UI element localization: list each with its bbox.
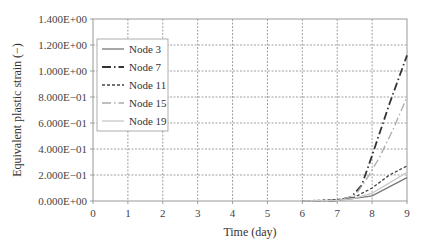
y-tick-label: 6.000E−01	[38, 117, 87, 129]
y-tick-label: 4.000E−01	[38, 143, 87, 155]
x-tick-label: 4	[230, 207, 236, 219]
legend: Node 3Node 7Node 11Node 15Node 19	[97, 39, 168, 131]
legend-label: Node 19	[129, 115, 167, 127]
legend-label: Node 3	[129, 43, 162, 55]
x-axis-label: Time (day)	[223, 225, 276, 239]
y-tick-label: 2.000E−01	[38, 169, 87, 181]
y-tick-label: 0.000E+00	[38, 195, 87, 207]
x-tick-label: 7	[334, 207, 340, 219]
x-tick-label: 1	[125, 207, 131, 219]
series-node-7	[313, 55, 407, 201]
x-tick-label: 6	[300, 207, 306, 219]
legend-label: Node 11	[129, 79, 166, 91]
legend-label: Node 15	[129, 97, 167, 109]
x-tick-label: 2	[160, 207, 166, 219]
y-tick-label: 8.000E−01	[38, 91, 87, 103]
x-axis-ticks: 0123456789	[90, 201, 410, 219]
x-tick-label: 3	[195, 207, 201, 219]
y-tick-label: 1.200E+00	[38, 39, 87, 51]
x-tick-label: 5	[265, 207, 271, 219]
y-tick-label: 1.000E+00	[38, 65, 87, 77]
x-tick-label: 8	[369, 207, 375, 219]
y-tick-label: 1.400E+00	[38, 13, 87, 25]
legend-label: Node 7	[129, 61, 162, 73]
x-tick-label: 0	[90, 207, 96, 219]
y-axis-ticks: 0.000E+002.000E−014.000E−016.000E−018.00…	[38, 13, 93, 207]
x-tick-label: 9	[404, 207, 410, 219]
line-chart: 0.000E+002.000E−014.000E−016.000E−018.00…	[0, 0, 424, 249]
y-axis-label: Equivalent plastic strain (−)	[10, 43, 24, 177]
data-series	[302, 55, 407, 201]
